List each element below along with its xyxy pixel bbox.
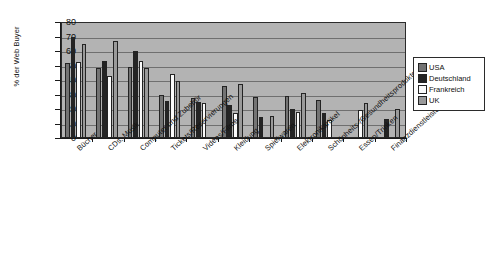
bar [144, 68, 149, 138]
bar [296, 112, 301, 138]
bar-group [92, 22, 123, 138]
bar [301, 93, 306, 138]
legend-item: USA [418, 62, 481, 73]
legend-item: Deutschland [418, 73, 481, 84]
bar [71, 37, 76, 139]
legend-swatch-uk [418, 96, 427, 105]
bar [102, 61, 107, 138]
bar [238, 84, 243, 138]
y-tick-mark [55, 37, 60, 38]
y-axis-label: % der Web Buyer [12, 14, 21, 100]
bar [395, 109, 400, 138]
legend-label-usa: USA [429, 64, 444, 72]
legend-label-uk: UK [429, 97, 439, 105]
legend-label-frankreich: Frankreich [429, 86, 464, 94]
legend-swatch-deutschland [418, 74, 427, 83]
y-tick-mark [55, 124, 60, 125]
y-tick-mark [55, 80, 60, 81]
bar [65, 63, 70, 138]
bar [82, 44, 87, 138]
y-tick-mark [55, 138, 60, 139]
y-tick-mark [55, 22, 60, 23]
chart-container: 80706050403020100 % der Web Buyer Bücher… [0, 0, 490, 260]
legend-swatch-usa [418, 63, 427, 72]
bar-group [281, 22, 312, 138]
y-tick-mark [55, 51, 60, 52]
legend-item: UK [418, 95, 481, 106]
legend-item: Frankreich [418, 84, 481, 95]
legend-label-deutschland: Deutschland [429, 75, 471, 83]
bar [259, 117, 264, 138]
bar [107, 76, 112, 138]
y-tick-mark [55, 66, 60, 67]
bar-group [249, 22, 280, 138]
bar [113, 41, 118, 138]
bar [76, 62, 81, 138]
legend-swatch-frankreich [418, 85, 427, 94]
bar-group [61, 22, 92, 138]
legend: USA Deutschland Frankreich UK [413, 57, 485, 111]
y-tick-mark [55, 95, 60, 96]
bar-group [124, 22, 155, 138]
y-tick-mark [55, 109, 60, 110]
bar [96, 68, 101, 138]
